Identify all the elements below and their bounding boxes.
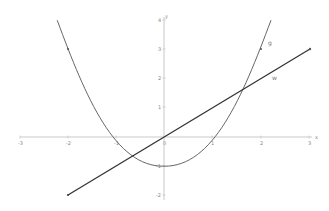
x-tick-label: 2 xyxy=(260,140,263,146)
y-tick-label: 1 xyxy=(158,104,161,110)
x-axis: x -3 -2 -1 0 1 2 3 xyxy=(18,134,318,146)
line-w xyxy=(68,49,310,195)
curve-g-label: g xyxy=(268,39,272,47)
x-tick-label: 0 xyxy=(163,140,166,146)
x-axis-label: x xyxy=(315,134,318,140)
y-axis-label: y xyxy=(165,13,168,20)
curve-g-point xyxy=(67,48,69,50)
curve-g-point xyxy=(260,48,262,50)
line-w-label: w xyxy=(272,74,277,81)
x-tick-label: -3 xyxy=(18,140,23,146)
function-plot: x -3 -2 -1 0 1 2 3 y 4 3 2 1 -1 xyxy=(0,0,329,211)
y-tick-label: -2 xyxy=(156,192,161,198)
x-tick-label: -2 xyxy=(66,140,71,146)
y-tick-label: 4 xyxy=(158,17,161,23)
x-tick-label: 3 xyxy=(308,140,311,146)
line-w-endpoint xyxy=(309,48,311,50)
line-w-endpoint xyxy=(67,194,69,196)
y-axis: y 4 3 2 1 -1 -2 xyxy=(156,13,168,200)
y-tick-label: 3 xyxy=(158,46,161,52)
y-tick-label: 2 xyxy=(158,75,161,81)
